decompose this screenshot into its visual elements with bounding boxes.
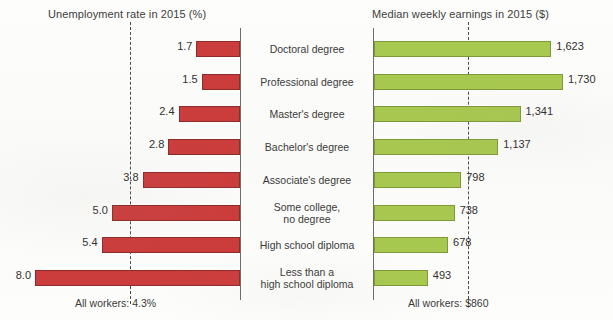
unemployment-bar xyxy=(168,139,240,155)
right-panel-title: Median weekly earnings in 2015 ($) xyxy=(372,8,549,20)
earnings-bar xyxy=(374,41,551,57)
unemployment-bar xyxy=(202,74,240,90)
unemployment-bar xyxy=(179,106,241,122)
unemployment-value-label: 2.4 xyxy=(0,105,175,117)
category-label: Professional degree xyxy=(243,66,371,98)
category-label: Associate's degree xyxy=(243,164,371,196)
earnings-bar xyxy=(374,237,448,253)
earnings-value-label: 493 xyxy=(433,269,451,281)
earnings-value-label: 1,730 xyxy=(568,73,596,85)
category-label: Master's degree xyxy=(243,98,371,130)
chart-row: 2.8Bachelor's degree1,137 xyxy=(0,131,613,163)
unemployment-value-label: 2.8 xyxy=(0,138,164,150)
chart-row: 1.7Doctoral degree1,623 xyxy=(0,33,613,65)
category-label: Less than ahigh school diploma xyxy=(243,262,371,294)
left-reference-line-label: All workers: 4.3% xyxy=(75,297,156,309)
unemployment-bar xyxy=(35,270,240,286)
chart-row: 5.0Some college,no degree738 xyxy=(0,197,613,229)
chart-row: 8.0Less than ahigh school diploma493 xyxy=(0,262,613,294)
unemployment-value-label: 1.7 xyxy=(0,40,192,52)
earnings-bar xyxy=(374,139,498,155)
earnings-bar xyxy=(374,270,428,286)
back-to-back-bar-chart: Unemployment rate in 2015 (%) Median wee… xyxy=(0,0,613,320)
unemployment-bar xyxy=(102,237,240,253)
unemployment-bar xyxy=(112,205,240,221)
unemployment-bar xyxy=(196,41,240,57)
earnings-bar xyxy=(374,74,563,90)
chart-row: 3.8Associate's degree798 xyxy=(0,164,613,196)
earnings-value-label: 738 xyxy=(460,204,478,216)
earnings-bar xyxy=(374,205,455,221)
earnings-value-label: 1,623 xyxy=(556,40,584,52)
chart-row: 2.4Master's degree1,341 xyxy=(0,98,613,130)
earnings-value-label: 798 xyxy=(466,171,484,183)
unemployment-value-label: 8.0 xyxy=(0,269,31,281)
chart-row: 1.5Professional degree1,730 xyxy=(0,66,613,98)
chart-row: 5.4High school diploma678 xyxy=(0,229,613,261)
earnings-value-label: 678 xyxy=(453,236,471,248)
category-label: Bachelor's degree xyxy=(243,131,371,163)
category-label: High school diploma xyxy=(243,229,371,261)
category-label: Some college,no degree xyxy=(243,197,371,229)
unemployment-value-label: 1.5 xyxy=(0,73,198,85)
category-label: Doctoral degree xyxy=(243,33,371,65)
unemployment-bar xyxy=(143,172,240,188)
earnings-bar xyxy=(374,172,461,188)
unemployment-value-label: 3.8 xyxy=(0,171,139,183)
unemployment-value-label: 5.0 xyxy=(0,204,108,216)
right-reference-line-label: All workers: $860 xyxy=(408,297,489,309)
earnings-value-label: 1,137 xyxy=(503,138,531,150)
left-panel-title: Unemployment rate in 2015 (%) xyxy=(48,8,206,20)
unemployment-value-label: 5.4 xyxy=(0,236,98,248)
earnings-bar xyxy=(374,106,521,122)
earnings-value-label: 1,341 xyxy=(526,105,554,117)
